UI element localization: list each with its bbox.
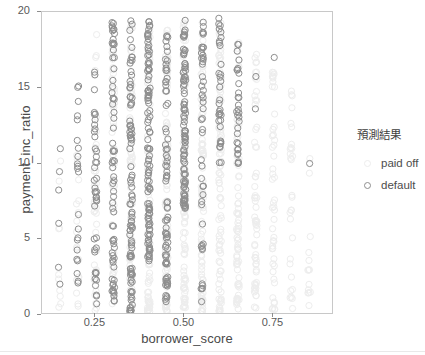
y-tick-mark — [37, 163, 41, 164]
y-tick-mark — [37, 238, 41, 239]
legend-title: 預測結果 — [357, 126, 425, 142]
legend-key — [357, 153, 377, 173]
x-tick-label: 0.75 — [252, 316, 292, 328]
x-tick-mark — [183, 313, 184, 317]
x-axis-title: borrower_score — [41, 331, 333, 346]
legend-item-paid-off[interactable]: paid off — [357, 152, 425, 174]
y-tick-label: 15 — [0, 80, 30, 92]
y-tick-label: 10 — [0, 156, 30, 168]
y-axis-tick-labels: 05101520 — [0, 0, 30, 355]
legend-label: default — [381, 179, 416, 191]
y-tick-label: 5 — [0, 231, 30, 243]
data-points-layer — [42, 12, 333, 314]
x-axis-tick-labels: 0.250.500.75 — [0, 316, 425, 332]
y-tick-label: 20 — [0, 4, 30, 16]
legend-key — [357, 175, 377, 195]
open-circle-icon — [364, 182, 371, 189]
bottom-edge-artifact — [0, 351, 425, 352]
legend-items: paid offdefault — [357, 152, 425, 196]
legend-label: paid off — [381, 157, 419, 169]
open-circle-icon — [364, 160, 371, 167]
x-tick-label: 0.25 — [74, 316, 114, 328]
x-tick-label: 0.50 — [163, 316, 203, 328]
scatter-plot-figure: payment_inc_ratio borrower_score 0510152… — [0, 0, 425, 355]
y-tick-mark — [37, 11, 41, 12]
plot-panel — [41, 11, 333, 314]
legend: 預測結果 paid offdefault — [357, 126, 425, 196]
legend-item-default[interactable]: default — [357, 174, 425, 196]
x-tick-mark — [272, 313, 273, 317]
y-tick-mark — [37, 314, 41, 315]
x-tick-mark — [94, 313, 95, 317]
y-tick-mark — [37, 87, 41, 88]
